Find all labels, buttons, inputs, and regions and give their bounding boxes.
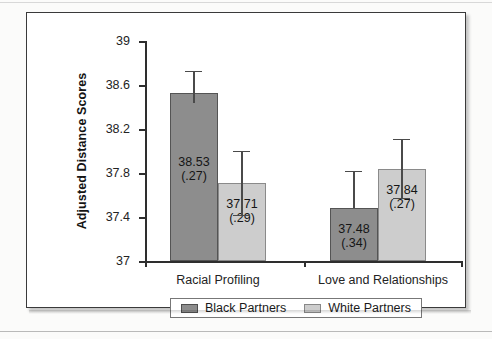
page-top-rule [0, 2, 492, 3]
error-bar-white-racial-profiling [241, 151, 242, 215]
y-tick-label-37: 37 [116, 254, 130, 268]
error-cap-top-white-racial-profiling [233, 151, 250, 152]
y-axis-line [145, 41, 147, 261]
x-tick-mark-mid [304, 261, 306, 267]
y-tick-label-39: 39 [116, 34, 130, 48]
bar-black-partners-racial-profiling[interactable] [170, 93, 218, 261]
plot-area: 39 38.6 38.2 37.8 37.4 37 [145, 41, 463, 261]
y-axis-title: Adjusted Distance Scores [73, 41, 91, 261]
error-cap-black-love-relationships [345, 171, 362, 172]
y-tick-label-38-2: 38.2 [106, 122, 130, 136]
y-tick-label-37-8: 37.8 [106, 166, 130, 180]
figure-container: Adjusted Distance Scores 39 38.6 38.2 37… [0, 0, 492, 339]
chart-frame: Adjusted Distance Scores 39 38.6 38.2 37… [26, 12, 466, 308]
chart-legend: Black Partners White Partners [170, 298, 422, 318]
x-category-label-love-relationships: Love and Relationships [318, 273, 448, 287]
error-cap-bottom-white-racial-profiling [233, 215, 250, 216]
error-bar-black-racial-profiling [193, 71, 194, 103]
error-bar-black-love-relationships [353, 171, 354, 208]
bar-black-partners-love-relationships[interactable] [330, 208, 378, 261]
y-tick-mark-37-8: 37.8 [139, 173, 145, 175]
error-cap-black-racial-profiling [185, 71, 202, 72]
frame-drop-shadow [29, 310, 471, 314]
x-tick-mark-left [145, 261, 147, 267]
y-tick-mark-37-4: 37.4 [139, 217, 145, 219]
y-tick-mark-38-6: 38.6 [139, 85, 145, 87]
error-cap-top-white-love-relationships [393, 139, 410, 140]
page-bottom-rule [0, 331, 492, 332]
x-tick-mark-right [461, 261, 463, 267]
y-tick-mark-38-2: 38.2 [139, 129, 145, 131]
y-tick-label-37-4: 37.4 [106, 210, 130, 224]
x-category-label-racial-profiling: Racial Profiling [176, 273, 259, 287]
y-tick-label-38-6: 38.6 [106, 78, 130, 92]
error-bar-white-love-relationships [401, 139, 402, 198]
error-cap-bottom-white-love-relationships [393, 198, 410, 199]
y-tick-mark-39: 39 [139, 41, 145, 43]
